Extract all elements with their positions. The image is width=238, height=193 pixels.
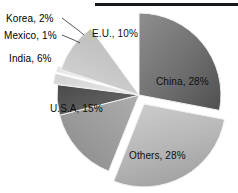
leader-line-korea	[62, 18, 84, 35]
slice-label-others: Others, 28%	[129, 150, 186, 161]
pie-slice-china	[139, 13, 221, 110]
leader-line-mexico	[62, 35, 80, 43]
slice-label-eu: E.U., 10%	[92, 28, 138, 39]
slice-label-usa: U.S.A, 15%	[50, 103, 103, 114]
slice-label-korea: Korea, 2%	[6, 13, 54, 24]
slice-label-china: China, 28%	[156, 76, 209, 87]
slice-label-india: India, 6%	[9, 53, 52, 64]
pie-chart-figure: Korea, 2% Mexico, 1% India, 6% E.U., 10%…	[0, 0, 238, 193]
slice-label-mexico: Mexico, 1%	[4, 30, 57, 41]
